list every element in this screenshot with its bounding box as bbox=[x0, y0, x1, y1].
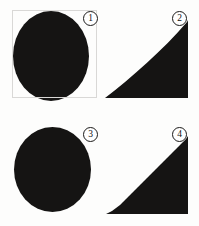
panel-label-2-text: 2 bbox=[177, 13, 182, 23]
panel-label-3-text: 3 bbox=[88, 129, 93, 139]
panel-1-disc bbox=[13, 11, 89, 101]
figure-root: 1 2 3 4 bbox=[0, 0, 199, 226]
panel-label-3-badge: 3 bbox=[83, 127, 98, 142]
panel-3-disc bbox=[14, 127, 91, 212]
panel-label-1-badge: 1 bbox=[83, 11, 98, 26]
panel-label-4-text: 4 bbox=[177, 129, 182, 139]
panel-label-4-badge: 4 bbox=[172, 127, 187, 142]
panel-label-2-badge: 2 bbox=[172, 11, 187, 26]
panel-label-1-text: 1 bbox=[88, 13, 93, 23]
